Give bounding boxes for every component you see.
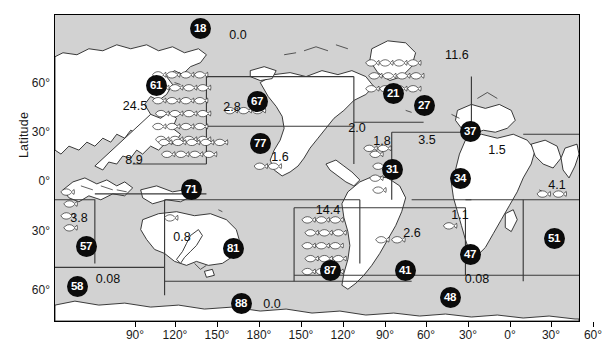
x-tickmark-9 <box>510 322 511 327</box>
x-tick-2: 150° <box>194 328 240 342</box>
fish-glyph <box>170 110 183 116</box>
fish-glyph <box>194 123 207 129</box>
region-badge-21[interactable]: 21 <box>383 83 404 104</box>
fish-glyph <box>268 163 281 169</box>
value-label-81: 0.8 <box>173 230 191 244</box>
fish-glyph <box>153 97 166 103</box>
fish-glyph <box>200 139 213 145</box>
value-label-58: 0.08 <box>96 272 121 286</box>
region-badge-61[interactable]: 61 <box>146 75 167 96</box>
x-tickmark-11 <box>593 322 594 327</box>
region-badge-31[interactable]: 31 <box>382 159 403 180</box>
x-tickmark-5 <box>343 322 344 327</box>
value-label-67: 2.8 <box>223 100 241 114</box>
region-badge-51[interactable]: 51 <box>544 228 565 249</box>
value-label-88: 0.0 <box>263 297 281 311</box>
x-tick-10: 30° <box>528 328 574 342</box>
region-badge-47[interactable]: 47 <box>460 244 481 265</box>
fish-glyph <box>330 217 343 223</box>
y-tick-3: 30° <box>6 224 50 238</box>
fish-glyph <box>194 72 207 78</box>
y-tick-1: 30° <box>6 125 50 139</box>
fish-glyph <box>330 243 343 249</box>
map-plot-area[interactable]: 180.06124.5672.8771.6718.92111.627311.83… <box>54 14 580 322</box>
region-badge-18[interactable]: 18 <box>190 18 211 39</box>
region-badge-48[interactable]: 48 <box>440 287 461 308</box>
region-badge-41[interactable]: 41 <box>395 260 416 281</box>
x-tick-7: 60° <box>403 328 449 342</box>
value-label-47: 1.1 <box>451 208 469 222</box>
fish-symbol-layer <box>55 15 579 321</box>
fish-glyph <box>394 60 407 66</box>
fish-glyph <box>316 217 329 223</box>
fish-glyph <box>214 139 227 145</box>
fish-glyph <box>370 175 383 181</box>
region-badge-81[interactable]: 81 <box>223 238 244 259</box>
region-badge-27[interactable]: 27 <box>414 95 435 116</box>
fish-glyph <box>167 97 180 103</box>
region-badge-71[interactable]: 71 <box>181 179 202 200</box>
fish-glyph <box>383 73 396 79</box>
x-tickmark-8 <box>468 322 469 327</box>
x-tick-9: 0° <box>487 328 533 342</box>
x-tickmark-6 <box>385 322 386 327</box>
fish-glyph <box>319 230 332 236</box>
fish-glyph <box>380 60 393 66</box>
value-label-41: 2.6 <box>403 226 421 240</box>
region-badge-37[interactable]: 37 <box>460 121 481 142</box>
fish-glyph <box>408 86 421 92</box>
value-label-71: 8.9 <box>125 153 143 167</box>
fish-glyph <box>376 237 389 243</box>
x-tick-5: 120° <box>320 328 366 342</box>
x-tick-4: 150° <box>278 328 324 342</box>
x-tickmark-1 <box>175 322 176 327</box>
fish-glyph <box>302 217 315 223</box>
x-tick-8: 30° <box>445 328 491 342</box>
fish-glyph <box>170 85 183 91</box>
value-label-37: 1.5 <box>488 143 506 157</box>
fish-glyph <box>61 189 74 195</box>
region-badge-77[interactable]: 77 <box>250 133 271 154</box>
fish-glyph <box>181 123 194 129</box>
fish-glyph <box>167 72 180 78</box>
y-tick-4: 60° <box>6 283 50 297</box>
x-tickmark-0 <box>135 322 136 327</box>
fish-glyph <box>156 110 169 116</box>
fish-glyph <box>203 151 216 157</box>
fish-glyph <box>408 60 421 66</box>
fish-glyph <box>153 123 166 129</box>
value-label-77: 1.6 <box>271 150 289 164</box>
region-badge-58[interactable]: 58 <box>67 276 88 297</box>
value-label-57: 3.8 <box>70 211 88 225</box>
x-tickmark-10 <box>551 322 552 327</box>
value-label-18: 0.0 <box>229 28 247 42</box>
x-axis-ticks: 90°120°150°180°150°120°90°60°30°0°30°60° <box>54 328 580 344</box>
fish-glyph <box>165 215 178 221</box>
fish-glyph <box>366 86 379 92</box>
fish-glyph <box>181 72 194 78</box>
fish-glyph <box>397 73 410 79</box>
fish-glyph <box>176 151 189 157</box>
fish-glyph <box>184 85 197 91</box>
y-tick-2: 0° <box>6 174 50 188</box>
fish-glyph <box>184 110 197 116</box>
x-tickmark-2 <box>217 322 218 327</box>
x-tickmark-7 <box>426 322 427 327</box>
fish-glyph <box>64 201 77 207</box>
fish-glyph <box>305 255 318 261</box>
fish-glyph <box>333 230 346 236</box>
value-label-extra20: 2.0 <box>348 121 366 135</box>
fish-glyph <box>305 230 318 236</box>
region-badge-67[interactable]: 67 <box>247 91 268 112</box>
fish-glyph <box>444 223 457 229</box>
region-badge-88[interactable]: 88 <box>231 293 252 314</box>
fish-glyph <box>64 225 77 231</box>
x-tick-3: 180° <box>236 328 282 342</box>
fish-glyph <box>167 123 180 129</box>
region-badge-57[interactable]: 57 <box>76 236 97 257</box>
region-badge-87[interactable]: 87 <box>320 260 341 281</box>
value-label-51: 4.1 <box>548 178 566 192</box>
region-badge-34[interactable]: 34 <box>450 168 471 189</box>
x-tickmark-4 <box>301 322 302 327</box>
